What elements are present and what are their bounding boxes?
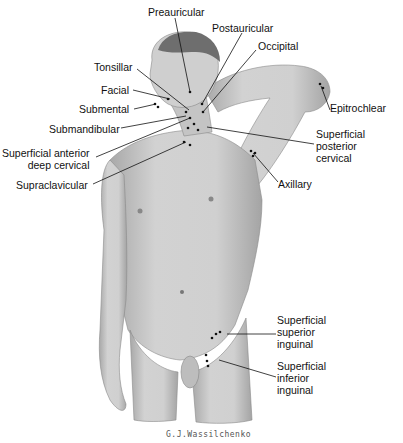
genitals [181,356,199,388]
label-submandibular: Submandibular [49,123,120,135]
leader-submental [134,104,156,109]
label-axillary: Axillary [278,178,312,190]
navel [180,290,184,294]
lymph-node-illustration [0,0,403,443]
label-superficial-inferior-inguinal: Superficial inferior inguinal [277,360,326,396]
label-submental: Submental [79,103,129,115]
leader-submandibular [121,116,186,128]
label-superficial-posterior-cervical: Superficial posterior cervical [316,128,365,164]
label-postauricular: Postauricular [212,22,273,34]
label-tonsillar: Tonsillar [94,61,133,73]
hanging-arm [99,160,127,410]
nipple [209,197,214,202]
artist-signature: G.J.Wassilchenko [166,430,251,439]
label-superficial-anterior-deep-cervical: Superficial anterior deep cervical [2,147,90,171]
label-superficial-superior-inguinal: Superficial superior inguinal [277,314,326,350]
label-facial: Facial [101,84,129,96]
label-preauricular: Preauricular [148,6,205,18]
nipple [138,209,143,214]
label-occipital: Occipital [258,40,298,52]
label-supraclavicular: Supraclavicular [16,179,88,191]
torso [109,130,262,360]
label-epitrochlear: Epitrochlear [330,102,386,114]
